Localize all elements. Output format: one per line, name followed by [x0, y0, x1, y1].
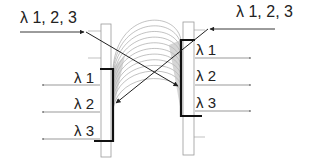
- left-output-label-3: λ 3: [74, 123, 94, 138]
- left-output-label-1: λ 1: [74, 70, 94, 85]
- right-output-label-2: λ 2: [196, 68, 216, 83]
- left-fan-shade: [113, 55, 125, 112]
- right-output-label-1: λ 1: [196, 42, 216, 57]
- left-input-label: λ 1, 2, 3: [20, 10, 77, 26]
- left-output-label-2: λ 2: [74, 96, 94, 111]
- beam-fan: [113, 20, 181, 108]
- right-fan-shade: [169, 40, 181, 112]
- right-output-label-3: λ 3: [196, 95, 216, 110]
- cross-beam-1: [86, 32, 178, 86]
- right-input-label: λ 1, 2, 3: [236, 4, 293, 20]
